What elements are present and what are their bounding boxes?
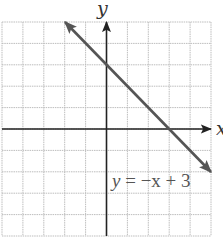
line-y-equals-neg-x-plus-3 <box>65 22 211 172</box>
equation-label: y = −x + 3 <box>110 170 191 191</box>
coordinate-plane: y x y = −x + 3 <box>0 0 223 245</box>
x-axis-label: x <box>216 117 223 139</box>
y-axis-label: y <box>96 0 108 19</box>
